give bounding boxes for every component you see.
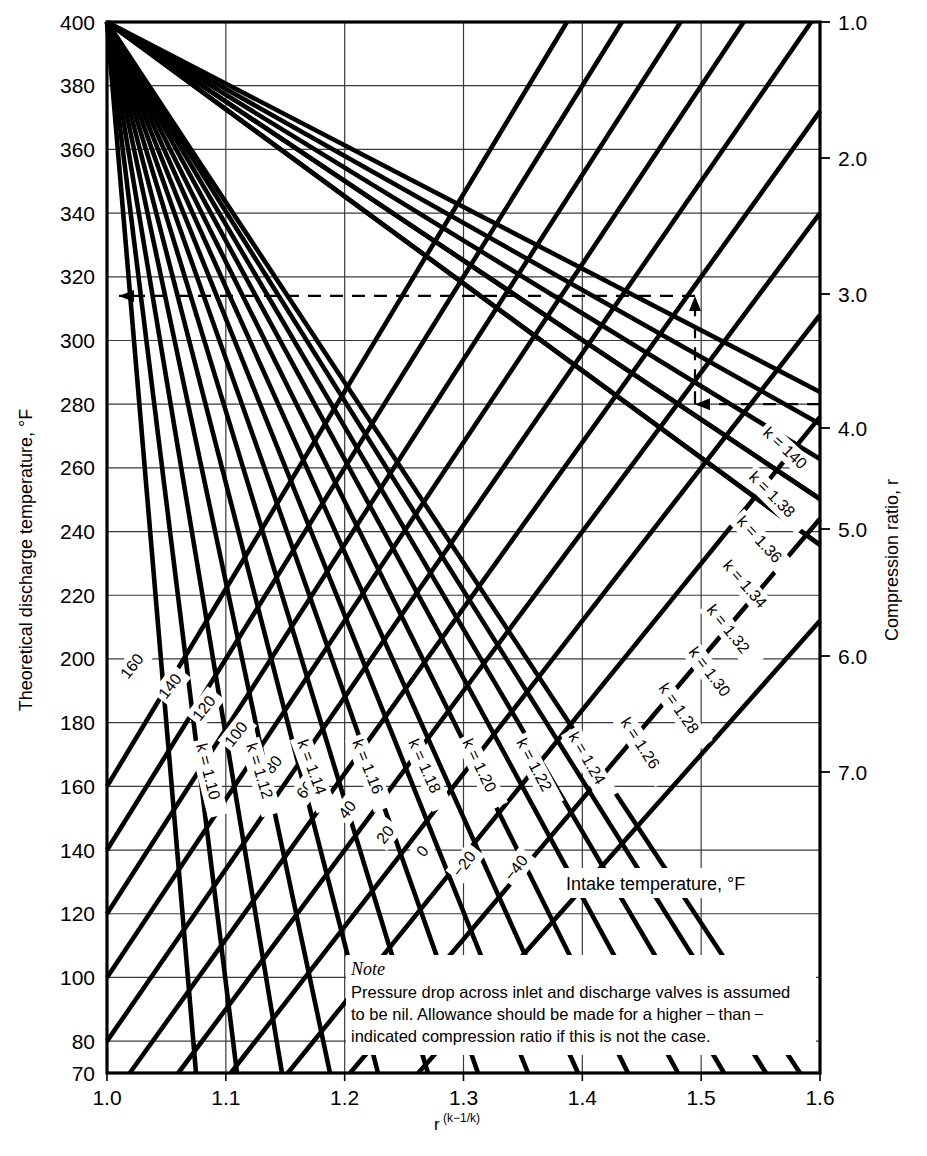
right-axis-tick-label: 7.0 bbox=[838, 761, 867, 784]
right-axis-tick-label: 4.0 bbox=[838, 417, 867, 440]
right-axis-tick-label: 2.0 bbox=[838, 147, 867, 170]
note-line-3: indicated compression ratio if this is n… bbox=[351, 1027, 711, 1045]
bottom-axis-tick-label: 1.4 bbox=[568, 1086, 598, 1109]
left-axis-tick-label: 140 bbox=[60, 839, 95, 862]
left-axis-tick-label: 220 bbox=[60, 584, 95, 607]
left-axis-tick-label: 100 bbox=[60, 966, 95, 989]
nomograph-canvas: 160140120100806040200−20−40k = 1.10k = 1… bbox=[0, 0, 927, 1156]
note-heading: Note bbox=[350, 959, 385, 979]
bottom-axis-tick-label: 1.5 bbox=[687, 1086, 716, 1109]
left-axis-tick-label: 260 bbox=[60, 456, 95, 479]
left-axis-title: Theoretical discharge temperature, °F bbox=[16, 409, 36, 711]
left-axis-tick-label: 200 bbox=[60, 647, 95, 670]
left-axis-tick-label: 70 bbox=[72, 1062, 95, 1085]
left-axis-tick-label: 340 bbox=[60, 202, 95, 225]
left-axis-tick-label: 380 bbox=[60, 74, 95, 97]
left-axis-tick-label: 320 bbox=[60, 265, 95, 288]
right-axis-title: Compression ratio, r bbox=[882, 479, 902, 641]
left-axis-tick-label: 240 bbox=[60, 520, 95, 543]
right-axis-tick-label: 5.0 bbox=[838, 518, 867, 541]
bottom-axis-title-exponent: (k−1/k) bbox=[443, 1111, 480, 1125]
left-axis-tick-label: 160 bbox=[60, 775, 95, 798]
left-axis-tick-label: 180 bbox=[60, 711, 95, 734]
right-axis-tick-label: 3.0 bbox=[838, 283, 867, 306]
left-axis-tick-label: 120 bbox=[60, 902, 95, 925]
bottom-axis-tick-label: 1.1 bbox=[211, 1086, 240, 1109]
left-axis-tick-label: 280 bbox=[60, 393, 95, 416]
bottom-axis-tick-label: 1.6 bbox=[805, 1086, 834, 1109]
nomograph-figure: 160140120100806040200−20−40k = 1.10k = 1… bbox=[0, 0, 927, 1156]
left-axis-tick-label: 300 bbox=[60, 329, 95, 352]
note-line-1: Pressure drop across inlet and discharge… bbox=[351, 983, 790, 1001]
bottom-axis-tick-label: 1.0 bbox=[92, 1086, 121, 1109]
right-axis-tick-label: 6.0 bbox=[838, 645, 867, 668]
note-line-2: to be nil. Allowance should be made for … bbox=[351, 1005, 764, 1023]
left-axis-tick-label: 400 bbox=[60, 11, 95, 34]
bottom-axis-tick-label: 1.2 bbox=[330, 1086, 359, 1109]
bottom-axis-title-base: r bbox=[434, 1115, 440, 1134]
left-axis-tick-label: 360 bbox=[60, 138, 95, 161]
bottom-axis-tick-label: 1.3 bbox=[449, 1086, 478, 1109]
right-axis-tick-label: 1.0 bbox=[838, 11, 867, 34]
left-axis-tick-label: 80 bbox=[72, 1030, 95, 1053]
intake-temperature-caption: Intake temperature, °F bbox=[566, 874, 745, 894]
